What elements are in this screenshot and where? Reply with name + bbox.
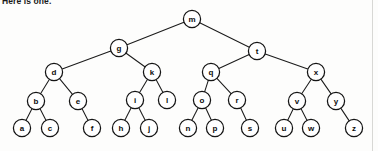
tree-node-p[interactable]: p [206, 119, 223, 136]
tree-node-t[interactable]: t [248, 42, 265, 59]
tree-node-f[interactable]: f [83, 119, 100, 136]
tree-edge-d-e [59, 78, 73, 95]
tree-node-v[interactable]: v [288, 92, 305, 109]
tree-node-m[interactable]: m [183, 10, 200, 27]
node-label-w: w [307, 124, 315, 133]
node-label-j: j [147, 124, 150, 133]
tree-node-j[interactable]: j [140, 119, 157, 136]
tree-edge-q-r [216, 78, 231, 94]
tree-edge-o-n [192, 107, 199, 121]
tree-node-i[interactable]: i [126, 91, 143, 108]
tree-edge-t-x [265, 54, 309, 70]
tree-node-d[interactable]: d [45, 63, 62, 80]
node-label-k: k [150, 68, 155, 77]
tree-node-s[interactable]: s [241, 119, 258, 136]
node-label-x: x [314, 68, 319, 77]
tree-edge-g-k [125, 53, 145, 68]
node-label-d: d [52, 68, 57, 77]
tree-edge-t-q [218, 54, 249, 68]
node-label-l: l [166, 96, 168, 105]
node-label-p: p [213, 124, 218, 133]
binary-search-tree-graphic: mgtdkqxbeilorvyacfhjnpsuwz [0, 0, 378, 151]
node-label-f: f [91, 124, 94, 133]
node-label-i: i [134, 96, 136, 105]
tree-edge-m-t [199, 23, 250, 48]
tree-diagram-canvas: Here is one. mgtdkqxbeilorvyacfhjnpsuwz [0, 0, 378, 151]
tree-node-e[interactable]: e [69, 92, 86, 109]
node-label-n: n [186, 124, 191, 133]
tree-node-b[interactable]: b [27, 92, 44, 109]
tree-edge-r-s [240, 107, 246, 120]
node-label-b: b [34, 97, 39, 106]
tree-edge-o-p [205, 107, 211, 120]
tree-node-l[interactable]: l [158, 91, 175, 108]
tree-node-g[interactable]: g [110, 39, 127, 56]
scan-border-right [372, 0, 373, 151]
tree-node-z[interactable]: z [345, 119, 362, 136]
node-label-t: t [256, 47, 259, 56]
tree-edge-i-j [139, 107, 146, 121]
node-label-g: g [117, 44, 122, 53]
tree-edge-x-y [321, 79, 332, 95]
tree-edge-g-d [62, 51, 112, 69]
tree-edge-i-h [125, 107, 132, 121]
tree-node-k[interactable]: k [143, 63, 160, 80]
node-label-m: m [188, 15, 195, 24]
nodes-group: mgtdkqxbeilorvyacfhjnpsuwz [13, 10, 362, 136]
tree-edge-v-u [287, 108, 293, 121]
tree-edge-b-a [26, 108, 33, 121]
tree-edge-d-b [40, 79, 50, 94]
tree-edge-k-l [156, 79, 163, 93]
tree-node-a[interactable]: a [13, 119, 30, 136]
node-label-s: s [248, 124, 253, 133]
tree-node-q[interactable]: q [202, 63, 219, 80]
tree-edge-x-v [301, 79, 311, 95]
tree-edge-m-g [126, 22, 184, 45]
node-label-e: e [76, 97, 81, 106]
tree-edge-y-z [340, 108, 349, 122]
tree-node-r[interactable]: r [228, 91, 245, 108]
node-label-u: u [282, 124, 287, 133]
tree-node-w[interactable]: w [302, 119, 319, 136]
node-label-h: h [119, 124, 124, 133]
node-label-z: z [352, 124, 356, 133]
node-label-c: c [48, 124, 53, 133]
tree-node-n[interactable]: n [179, 119, 196, 136]
node-label-o: o [200, 96, 205, 105]
tree-edge-q-o [204, 80, 208, 93]
node-label-y: y [334, 97, 339, 106]
tree-node-c[interactable]: c [41, 119, 58, 136]
tree-node-y[interactable]: y [327, 92, 344, 109]
tree-node-h[interactable]: h [112, 119, 129, 136]
tree-node-x[interactable]: x [307, 63, 324, 80]
tree-node-u[interactable]: u [275, 119, 292, 136]
node-label-r: r [235, 96, 238, 105]
tree-edge-b-c [40, 108, 47, 121]
tree-edge-e-f [82, 108, 89, 121]
node-label-a: a [20, 124, 25, 133]
tree-node-o[interactable]: o [193, 91, 210, 108]
node-label-v: v [295, 97, 300, 106]
tree-edge-v-w [301, 108, 308, 121]
node-label-q: q [209, 68, 214, 77]
tree-edge-k-i [139, 79, 148, 93]
